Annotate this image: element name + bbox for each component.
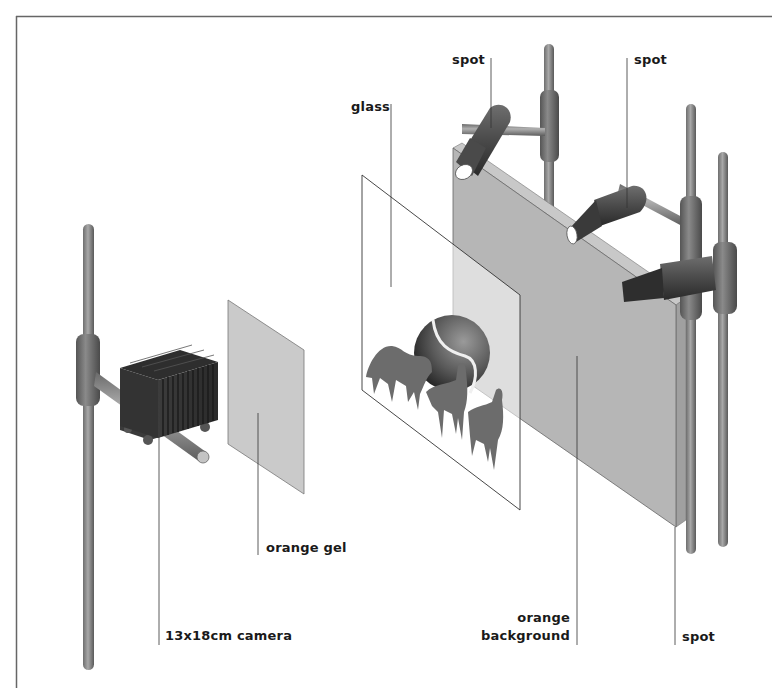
label-spot-top-right: spot [634, 51, 667, 69]
spot-light-top-right-icon [566, 186, 647, 245]
label-orange-background-line2: background [470, 627, 570, 645]
lighting-diagram: glass spot spot orange gel 13x18cm camer… [0, 0, 772, 688]
label-orange-gel: orange gel [266, 539, 347, 557]
label-glass: glass [351, 98, 390, 116]
label-camera: 13x18cm camera [165, 627, 292, 645]
camera-icon [120, 345, 218, 445]
camera-stand [76, 224, 209, 670]
orange-gel-panel [228, 300, 304, 494]
label-spot-bottom: spot [682, 628, 715, 646]
label-spot-top-left: spot [452, 51, 485, 69]
label-orange-background-line1: orange [490, 609, 570, 627]
